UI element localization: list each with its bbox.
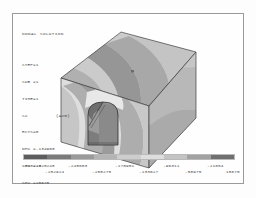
annotation-key: SUB =1 [22, 79, 56, 85]
annotation-key: SX [22, 113, 56, 119]
annotation-value: (AVG) [56, 113, 70, 119]
annotation-row: TIME=1 [22, 96, 100, 102]
annotation-key: STEP=1 [22, 62, 56, 68]
colorbar-band-6 [164, 155, 187, 159]
legend-tick-label: -208278 [92, 169, 111, 174]
ansys-plot-window: NODAL SOLUTION STEP=1 SUB =1 TIME=1 SX (… [0, 0, 256, 198]
colorbar-band-5 [141, 155, 164, 159]
annotation-key: TIME=1 [22, 96, 56, 102]
colorbar[interactable] [23, 154, 235, 160]
legend-tick-label: -96311 [163, 163, 179, 168]
colorbar-band-3 [94, 155, 117, 159]
annotation-row-result-item: SX (AVG) [22, 113, 100, 119]
colorbar-band-8 [211, 155, 234, 159]
legend-tick-label: -133627 [139, 169, 158, 174]
colorbar-band-2 [71, 155, 94, 159]
annotation-row: STEP=1 [22, 62, 100, 68]
annotation-row-dmx: DMX =.134960 [22, 146, 100, 152]
plot-frame: NODAL SOLUTION STEP=1 SUB =1 TIME=1 SX (… [12, 13, 244, 184]
legend-tick-label: -245603 [68, 163, 87, 168]
colorbar-band-7 [187, 155, 210, 159]
annotation-row: RSYS=0 [22, 129, 100, 135]
annotation-key: SMX =15670 [22, 180, 56, 186]
legend-tick-label: 15670 [226, 169, 240, 174]
legend-tick-label: -282924 [45, 169, 64, 174]
annotation-row-smx: SMX =15670 [22, 180, 100, 186]
annotation-key: DMX =.134960 [22, 146, 56, 152]
colorbar-band-0 [24, 155, 47, 159]
legend-tick-label: -21664 [207, 163, 223, 168]
plot-title: NODAL SOLUTION [22, 31, 100, 37]
annotation-key: RSYS=0 [22, 129, 56, 135]
node-marker [131, 70, 134, 72]
contour-legend: -320248 -245603 -170951 -96311 -21664 -2… [23, 154, 235, 178]
colorbar-band-1 [47, 155, 70, 159]
legend-tick-label: -58975 [185, 169, 201, 174]
legend-tick-label: -320248 [22, 163, 41, 168]
colorbar-band-4 [117, 155, 140, 159]
annotation-row: SUB =1 [22, 79, 100, 85]
legend-tick-label: -170951 [115, 163, 134, 168]
